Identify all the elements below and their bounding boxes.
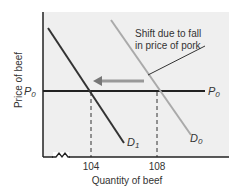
demand-shift-diagram: P0 P0 D1 D0 104 108 Quantity of beef Pri…	[0, 0, 238, 196]
x-tick-104: 104	[83, 161, 100, 172]
y-axis-label: Price of beef	[13, 52, 24, 108]
x-axis-label: Quantity of beef	[92, 175, 163, 186]
p0-label-left: P0	[24, 85, 36, 99]
annotation-line-2: in price of pork	[135, 40, 202, 51]
annotation-line-1: Shift due to fall	[135, 28, 201, 39]
x-tick-108: 108	[149, 161, 166, 172]
